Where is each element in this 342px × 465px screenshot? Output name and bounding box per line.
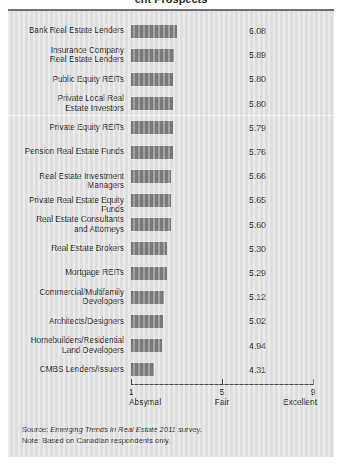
category-label: Commercial/Multifamily Developers bbox=[8, 288, 124, 307]
chart-row: Real Estate Investment Managers5.66 bbox=[8, 164, 334, 188]
axis-tick-label: Excellent bbox=[283, 397, 317, 407]
axis-tick bbox=[131, 379, 132, 385]
axis-tick-label: Fair bbox=[215, 397, 229, 407]
bar bbox=[131, 25, 177, 38]
category-label: Real Estate Consultants and Attorneys bbox=[8, 215, 124, 234]
chart-row: Public Equity REITs5.80 bbox=[8, 67, 334, 91]
category-label: Architects/Designers bbox=[8, 317, 124, 326]
bar bbox=[131, 267, 167, 280]
chart-title-text: ent Prospects bbox=[0, 0, 342, 5]
value-label: 5.12 bbox=[249, 292, 266, 302]
category-label: Private Equity REITs bbox=[8, 123, 124, 132]
chart-row: Private Equity REITs5.79 bbox=[8, 116, 334, 140]
chart-row: Real Estate Brokers5.30 bbox=[8, 237, 334, 261]
source-suffix: survey. bbox=[176, 425, 202, 434]
chart-row: Bank Real Estate Lenders6.08 bbox=[8, 19, 334, 43]
chart-row: Pension Real Estate Funds5.76 bbox=[8, 140, 334, 164]
value-label: 6.08 bbox=[249, 26, 266, 36]
bar bbox=[131, 73, 173, 86]
axis-tick-label: Absymal bbox=[129, 397, 161, 407]
value-label: 5.89 bbox=[249, 50, 266, 60]
note-line: Note: Based on Canadian respondents only… bbox=[22, 436, 322, 447]
chart-row: Commercial/Multifamily Developers5.12 bbox=[8, 285, 334, 309]
chart-row: Private Local Real Estate Investors5.80 bbox=[8, 92, 334, 116]
value-label: 5.80 bbox=[249, 74, 266, 84]
category-label: Public Equity REITs bbox=[8, 75, 124, 84]
chart-row: Architects/Designers5.02 bbox=[8, 309, 334, 333]
bar bbox=[131, 291, 164, 304]
bar bbox=[131, 339, 162, 352]
category-label: Pension Real Estate Funds bbox=[8, 147, 124, 156]
value-label: 5.65 bbox=[249, 195, 266, 205]
source-publication: Emerging Trends in Real Estate 2011 bbox=[50, 425, 176, 434]
value-label: 5.60 bbox=[249, 220, 266, 230]
chart-panel: Bank Real Estate Lenders6.08Insurance Co… bbox=[8, 9, 334, 457]
bar bbox=[131, 121, 173, 134]
category-label: CMBS Lenders/Issuers bbox=[8, 365, 124, 374]
chart-row: Insurance Company Real Estate Lenders5.8… bbox=[8, 43, 334, 67]
value-label: 4.94 bbox=[249, 341, 266, 351]
x-axis: 1Absymal5Fair9Excellent bbox=[8, 379, 334, 419]
value-label: 5.30 bbox=[249, 244, 266, 254]
bar bbox=[131, 97, 173, 110]
bar bbox=[131, 315, 163, 328]
category-label: Homebuilders/Residential Land Developers bbox=[8, 336, 124, 355]
category-label: Real Estate Brokers bbox=[8, 244, 124, 253]
bar bbox=[131, 146, 173, 159]
axis-tick-number: 5 bbox=[220, 387, 225, 397]
chart-row: Private Real Estate Equity Funds5.65 bbox=[8, 188, 334, 212]
bar bbox=[131, 170, 171, 183]
bar bbox=[131, 218, 171, 231]
chart-row: Real Estate Consultants and Attorneys5.6… bbox=[8, 213, 334, 237]
value-label: 4.31 bbox=[249, 365, 266, 375]
plot-area: Bank Real Estate Lenders6.08Insurance Co… bbox=[8, 13, 334, 379]
bar bbox=[131, 49, 174, 62]
chart-footnotes: Source: Emerging Trends in Real Estate 2… bbox=[22, 425, 322, 446]
value-label: 5.80 bbox=[249, 99, 266, 109]
value-label: 5.76 bbox=[249, 147, 266, 157]
source-prefix: Source: bbox=[22, 425, 50, 434]
source-line: Source: Emerging Trends in Real Estate 2… bbox=[22, 425, 322, 436]
chart-row: Mortgage REITs5.29 bbox=[8, 261, 334, 285]
value-label: 5.29 bbox=[249, 268, 266, 278]
category-label: Private Local Real Estate Investors bbox=[8, 94, 124, 113]
bar bbox=[131, 363, 154, 376]
bar bbox=[131, 242, 167, 255]
category-label: Mortgage REITs bbox=[8, 268, 124, 277]
chart-figure: ent Prospects Bank Real Estate Lenders6.… bbox=[0, 0, 342, 465]
chart-title-cropped: ent Prospects bbox=[0, 0, 342, 8]
value-label: 5.66 bbox=[249, 171, 266, 181]
category-label: Bank Real Estate Lenders bbox=[8, 26, 124, 35]
value-label: 5.02 bbox=[249, 316, 266, 326]
axis-tick bbox=[222, 379, 223, 385]
axis-tick bbox=[313, 379, 314, 385]
chart-row: Homebuilders/Residential Land Developers… bbox=[8, 334, 334, 358]
axis-tick-number: 1 bbox=[129, 387, 134, 397]
bar bbox=[131, 194, 171, 207]
value-label: 5.79 bbox=[249, 123, 266, 133]
axis-tick-number: 9 bbox=[311, 387, 316, 397]
category-label: Insurance Company Real Estate Lenders bbox=[8, 46, 124, 65]
